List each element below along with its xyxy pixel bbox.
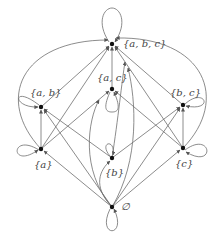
loop-ac xyxy=(106,92,118,112)
label-bc: {b, c} xyxy=(170,87,201,98)
label-a: {a} xyxy=(34,159,53,170)
loop-empty xyxy=(106,209,117,231)
edges xyxy=(17,8,207,231)
node-a xyxy=(39,147,43,151)
loop-a xyxy=(17,145,39,156)
node-empty xyxy=(110,205,114,209)
label-c: {c} xyxy=(175,158,193,169)
edge-b-ab xyxy=(44,109,112,158)
labels: {a, b, c} {a, c} {a, b} {b, c} {a} {b} {… xyxy=(30,38,201,212)
node-c xyxy=(181,146,185,150)
label-b: {b} xyxy=(105,167,124,178)
edge-b-bc xyxy=(112,107,180,158)
node-bc xyxy=(181,103,185,107)
node-ac xyxy=(110,87,114,91)
loop-abc xyxy=(102,8,122,42)
node-abc xyxy=(110,42,114,46)
node-b xyxy=(110,156,114,160)
edge-empty-c xyxy=(112,150,180,207)
node-ab xyxy=(39,105,43,109)
subset-relation-diagram: {a, b, c} {a, c} {a, b} {b, c} {a} {b} {… xyxy=(0,0,224,244)
label-ab: {a, b} xyxy=(30,87,61,98)
label-ac: {a, c} xyxy=(97,72,128,83)
loop-bc xyxy=(185,98,204,107)
edge-c-ac xyxy=(115,91,183,148)
loop-c xyxy=(185,144,207,157)
edge-empty-bc xyxy=(112,108,180,207)
edge-empty-a xyxy=(44,151,112,207)
label-abc: {a, b, c} xyxy=(123,38,166,49)
label-empty: ∅ xyxy=(121,201,131,212)
